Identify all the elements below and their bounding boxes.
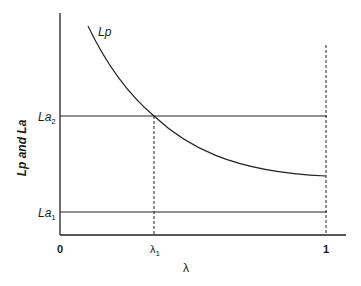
y-axis-label: Lp and La	[15, 119, 29, 176]
x-axis-label: λ	[183, 261, 189, 275]
one-tick-label: 1	[323, 243, 329, 255]
la2-tick-label: La2	[38, 110, 56, 126]
la1-tick-label: La1	[38, 206, 56, 222]
lp-curve	[88, 26, 326, 176]
lambda1-tick-label: λ1	[150, 243, 161, 258]
lp-label: Lp	[98, 25, 112, 39]
chart: Lp Lp and La La2 La1 0 λ1 1 λ	[0, 0, 361, 286]
origin-tick-label: 0	[57, 243, 63, 255]
